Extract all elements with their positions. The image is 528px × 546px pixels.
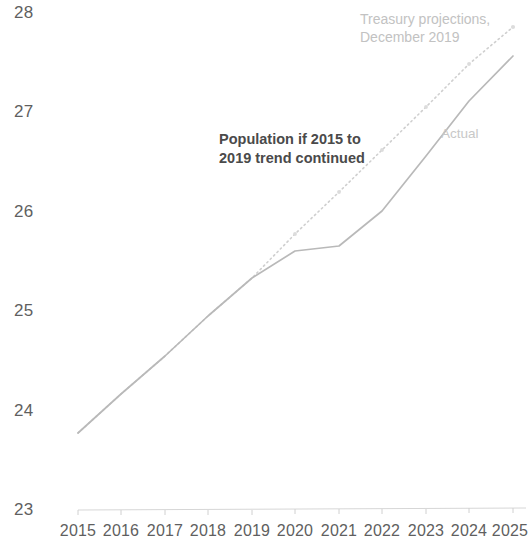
annotation-trend-label: Population if 2015 to 2019 trend continu…	[219, 130, 365, 167]
annotation-actual-label: Actual	[441, 125, 479, 142]
x-axis-tick-2022: 2022	[364, 523, 400, 539]
x-axis-tick-2020: 2020	[277, 523, 313, 539]
y-axis-tick-26: 26	[14, 203, 33, 220]
x-axis-tick-2018: 2018	[190, 523, 226, 539]
series-line-projection	[78, 27, 513, 433]
x-axis-ticks	[78, 508, 513, 515]
annotation-projections-label: Treasury projections, December 2019	[360, 11, 490, 47]
x-axis-tick-2019: 2019	[234, 523, 270, 539]
y-axis-tick-23: 23	[14, 501, 33, 518]
x-axis-tick-2017: 2017	[147, 523, 183, 539]
x-axis-tick-2015: 2015	[60, 523, 96, 539]
y-axis-tick-24: 24	[14, 402, 33, 419]
series-line-actual	[78, 56, 513, 433]
y-axis-tick-28: 28	[14, 4, 33, 21]
x-axis-tick-2023: 2023	[408, 523, 444, 539]
x-axis-baseline	[78, 508, 526, 510]
x-axis-tick-2025: 2025	[492, 523, 528, 539]
x-axis-tick-2024: 2024	[451, 523, 487, 539]
x-axis-tick-2016: 2016	[103, 523, 139, 539]
y-axis-tick-27: 27	[14, 103, 33, 120]
x-axis-tick-2021: 2021	[321, 523, 357, 539]
y-axis-tick-25: 25	[14, 302, 33, 319]
